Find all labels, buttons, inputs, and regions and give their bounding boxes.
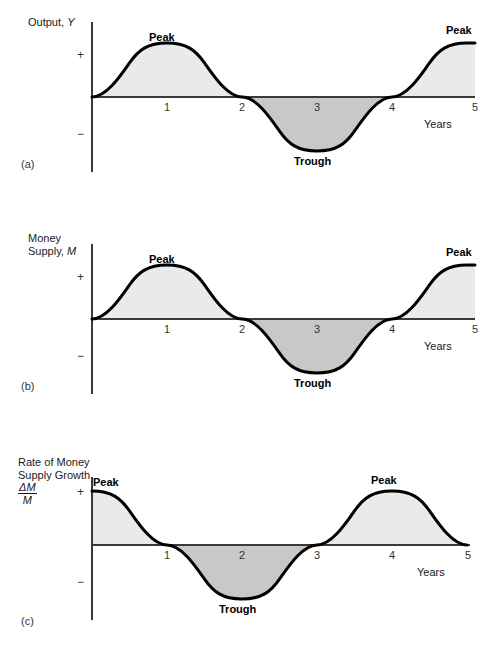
- panel-b-xtick-4: 4: [385, 323, 399, 335]
- panel-b-fill-above-2: [392, 265, 475, 319]
- panel-a-y-axis-title-line-1: Output,: [28, 16, 64, 28]
- panel-c-fraction-denominator: M: [18, 494, 37, 506]
- panel-a-y-axis-title: Output, Y: [28, 16, 74, 29]
- panel-b-xtick-1: 1: [160, 323, 174, 335]
- panel-b-y-axis-title-line-2: Supply, M: [28, 245, 76, 258]
- panel-c-y-axis-fraction: ΔM M: [18, 481, 37, 506]
- panel-a-minus-tick: −: [72, 127, 84, 141]
- panel-c-xtick-1: 1: [160, 549, 174, 561]
- panel-c-fill-above-1: [92, 491, 167, 545]
- panel-c-fraction-numerator: ΔM: [18, 481, 37, 494]
- panel-c-xtick-3: 3: [310, 549, 324, 561]
- chart-panel-a: Output, Y + − 1 2 3 4 5 Years Peak Troug…: [0, 0, 497, 200]
- panel-b-annotation-trough: Trough: [294, 377, 331, 389]
- panel-c-annotation-peak-1: Peak: [93, 476, 119, 488]
- panel-b-x-axis-label: Years: [424, 340, 452, 352]
- panel-c-y-axis-title-line-2: Supply Growth: [18, 469, 90, 482]
- panel-letter-c: (c): [21, 615, 34, 627]
- panel-c-annotation-trough: Trough: [219, 603, 256, 615]
- panel-c-y-axis-title-line-1: Rate of Money: [18, 456, 90, 469]
- panel-a-fill-above-2: [392, 43, 475, 97]
- panel-a-xtick-2: 2: [235, 101, 249, 113]
- panel-a-xtick-3: 3: [310, 101, 324, 113]
- panel-c-fill-above-2: [317, 491, 467, 545]
- panel-c-plus-tick: +: [72, 485, 84, 499]
- panel-c-xtick-5: 5: [461, 549, 475, 561]
- chart-panel-b: Money Supply, M + − 1 2 3 4 5 Years Peak…: [0, 222, 497, 422]
- panel-b-fill-above: [92, 265, 242, 319]
- panel-c-xtick-4: 4: [385, 549, 399, 561]
- panel-b-annotation-peak-2: Peak: [446, 246, 472, 258]
- panel-b-xtick-5: 5: [468, 323, 482, 335]
- panel-a-xtick-5: 5: [468, 101, 482, 113]
- panel-b-xtick-2: 2: [235, 323, 249, 335]
- panel-a-plus-tick: +: [72, 48, 84, 62]
- panel-a-xtick-1: 1: [160, 101, 174, 113]
- panel-b-annotation-peak-1: Peak: [149, 253, 175, 265]
- panel-a-y-axis-symbol: Y: [67, 16, 74, 28]
- panel-c-xtick-2: 2: [235, 549, 249, 561]
- chart-panel-c: Rate of Money Supply Growth ΔM M + − 1 2…: [0, 452, 497, 650]
- panel-b-minus-tick: −: [72, 349, 84, 363]
- panel-a-xtick-4: 4: [385, 101, 399, 113]
- panel-a-x-axis-label: Years: [424, 118, 452, 130]
- panel-letter-a: (a): [21, 158, 34, 170]
- panel-b-plus-tick: +: [72, 270, 84, 284]
- panel-b-xtick-3: 3: [310, 323, 324, 335]
- panel-b-y-axis-title-line-1: Money: [28, 232, 76, 245]
- panel-a-fill-above: [92, 43, 242, 97]
- panel-c-x-axis-label: Years: [417, 566, 445, 578]
- panel-b-y-axis-title-line-2-text: Supply,: [28, 245, 64, 257]
- panel-b-y-axis-title: Money Supply, M: [28, 232, 76, 257]
- panel-c-minus-tick: −: [72, 575, 84, 589]
- panel-a-plot: [0, 0, 497, 200]
- panel-b-y-axis-symbol: M: [67, 245, 76, 257]
- panel-a-annotation-trough: Trough: [294, 155, 331, 167]
- panel-a-annotation-peak-1: Peak: [149, 31, 175, 43]
- panel-a-annotation-peak-2: Peak: [446, 24, 472, 36]
- panel-c-annotation-peak-2: Peak: [371, 474, 397, 486]
- panel-letter-b: (b): [21, 380, 34, 392]
